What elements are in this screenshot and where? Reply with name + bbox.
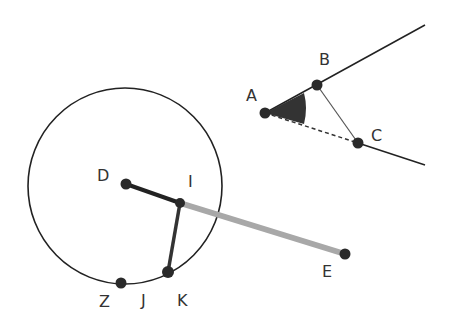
point-A[interactable] bbox=[260, 108, 271, 119]
point-B[interactable] bbox=[312, 80, 323, 91]
ray-AB bbox=[265, 25, 425, 113]
label-C: C bbox=[371, 126, 382, 145]
point-D[interactable] bbox=[121, 179, 132, 190]
segment-IK bbox=[168, 203, 180, 272]
label-A: A bbox=[246, 86, 257, 105]
point-K[interactable] bbox=[162, 266, 174, 278]
label-D: D bbox=[97, 166, 109, 185]
point-I[interactable] bbox=[175, 198, 185, 208]
ray-from-C bbox=[358, 143, 425, 165]
highlight-segment-IE bbox=[180, 203, 345, 254]
point-E[interactable] bbox=[340, 249, 351, 260]
label-K: K bbox=[177, 291, 188, 310]
geometry-diagram: A B C D I E Z J K bbox=[0, 0, 452, 325]
segment-DI bbox=[126, 184, 180, 203]
label-J: J bbox=[140, 291, 146, 310]
segment-BC bbox=[317, 85, 358, 143]
label-Z: Z bbox=[99, 292, 110, 311]
label-E: E bbox=[322, 262, 332, 281]
label-I: I bbox=[188, 172, 193, 191]
label-B: B bbox=[319, 50, 330, 69]
point-C[interactable] bbox=[353, 138, 364, 149]
dashed-segment-AC bbox=[265, 113, 358, 143]
point-Z[interactable] bbox=[116, 278, 127, 289]
